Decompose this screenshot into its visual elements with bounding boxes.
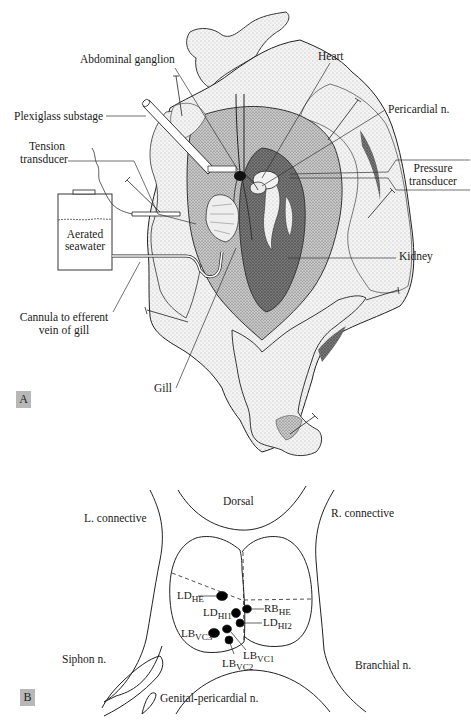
label-tension-transducer-line1: Tension bbox=[17, 140, 77, 153]
r-connective-outline bbox=[316, 490, 366, 712]
label-aerated-seawater-line2: seawater bbox=[58, 240, 112, 253]
siphon-upper bbox=[104, 646, 162, 702]
neuron-leader-lines bbox=[198, 596, 264, 654]
label-cannula-line2: vein of gill bbox=[14, 324, 114, 337]
label-siphon-n: Siphon n. bbox=[62, 653, 106, 666]
reservoir-cap bbox=[73, 190, 95, 194]
label-l-connective: L. connective bbox=[84, 512, 147, 525]
panel-a-drawing bbox=[58, 12, 470, 456]
neuron-ld-hi1 bbox=[232, 609, 241, 618]
neuron-ld-hi2 bbox=[236, 619, 244, 627]
plexiglass-stub bbox=[208, 166, 236, 172]
right-dashed-boundary bbox=[244, 599, 312, 600]
neuron-subscript: HI2 bbox=[278, 621, 292, 631]
neuron-label-ld-hi1: LDHI1 bbox=[203, 606, 232, 621]
neuron-label-ld-he: LDHE bbox=[177, 589, 204, 604]
label-pressure-transducer-line2: transducer bbox=[398, 175, 468, 188]
midline-dashed bbox=[243, 552, 244, 640]
neuron-subscript: VC3 bbox=[195, 632, 212, 642]
neuron-name: LB bbox=[222, 657, 236, 669]
neuron-name: RB bbox=[264, 602, 279, 614]
siphon-small-loop bbox=[142, 693, 156, 714]
label-gill: Gill bbox=[154, 382, 172, 395]
neuron-subscript: HE bbox=[192, 594, 204, 604]
neuron-lb-vc2 bbox=[225, 636, 233, 644]
neuron-subscript: VC1 bbox=[257, 654, 274, 664]
abdominal-ganglion-shape bbox=[234, 171, 246, 181]
dorsal-outline bbox=[178, 486, 306, 530]
neuron-subscript: HI1 bbox=[218, 611, 232, 621]
neuron-name: LD bbox=[263, 616, 278, 628]
neuron-marks bbox=[198, 592, 264, 655]
neuron-subscript: VC2 bbox=[236, 662, 253, 672]
neuron-label-lb-vc2: LBVC2 bbox=[222, 657, 253, 672]
label-r-connective: R. connective bbox=[331, 507, 394, 520]
label-plexiglass-substage: Plexiglass substage bbox=[14, 110, 103, 123]
label-tension-transducer-line2: transducer bbox=[14, 153, 74, 166]
tension-transducer-bar bbox=[132, 212, 180, 216]
neuron-ld-he bbox=[217, 592, 228, 601]
label-genital-pericardial-n: Genital-pericardial n. bbox=[160, 692, 258, 705]
label-abdominal-ganglion: Abdominal ganglion bbox=[80, 53, 175, 66]
label-pressure-transducer-line1: Pressure bbox=[398, 162, 468, 175]
neuron-label-lb-vc3: LBVC3 bbox=[181, 627, 212, 642]
label-heart: Heart bbox=[318, 50, 344, 63]
neuron-rb-he bbox=[243, 605, 252, 613]
neuron-name: LD bbox=[177, 589, 192, 601]
label-cannula-line1: Cannula to efferent bbox=[14, 311, 114, 324]
auricle-shape bbox=[250, 182, 266, 194]
neuron-label-rb-he: RBHE bbox=[264, 602, 291, 617]
neuron-lb-vc1 bbox=[223, 625, 232, 633]
neuron-name: LB bbox=[181, 627, 195, 639]
label-pericardial-n: Pericardial n. bbox=[388, 103, 449, 116]
neuron-label-ld-hi2: LDHI2 bbox=[263, 616, 292, 631]
panel-label-b: B bbox=[20, 689, 35, 706]
label-kidney: Kidney bbox=[399, 250, 433, 263]
panel-label-a: A bbox=[16, 391, 31, 408]
label-dorsal: Dorsal bbox=[223, 495, 254, 508]
label-branchial-n: Branchial n. bbox=[355, 659, 411, 672]
neuron-name: LD bbox=[203, 606, 218, 618]
